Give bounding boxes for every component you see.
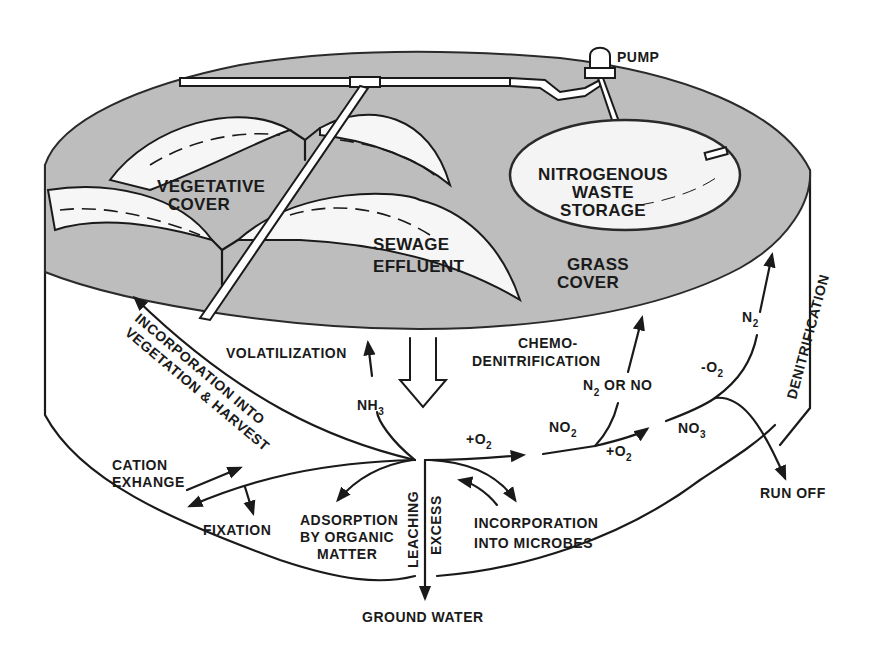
sewage-effluent-label-line1: SEWAGE	[373, 235, 449, 254]
pump-label: PUMP	[617, 49, 659, 65]
run-off-label: RUN OFF	[760, 485, 826, 501]
incorporation-vegetation-label-line2: VEGETATION & HARVEST	[122, 324, 273, 454]
microbes-label-line1: INCORPORATION	[474, 515, 598, 531]
cation-exchange-label-line1: CATION	[112, 457, 168, 473]
n2-or-no-label: N2 OR NO	[583, 377, 652, 398]
storage-label-line1: NITROGENOUS	[538, 165, 668, 184]
chemo-denitrification-label-line1: CHEMO-	[518, 335, 578, 351]
incorporation-vegetation-label-line1: INCORPORATION INTO	[132, 310, 268, 428]
sewage-effluent-label-line2: EFFLUENT	[373, 257, 464, 276]
waste-storage-pool: NITROGENOUS WASTE STORAGE	[510, 120, 740, 230]
adsorption-label-line3: MATTER	[317, 546, 377, 562]
leaching-label: LEACHING	[405, 491, 421, 568]
nitrogen-cycle-diagram: PUMP NITROGENOUS WASTE STORAGE VEGETATIV…	[0, 0, 871, 655]
plus-o2-label-b: +O2	[606, 443, 632, 463]
denitrification-label: DENITRIFICATION	[783, 272, 832, 400]
excess-label: EXCESS	[428, 495, 444, 555]
adsorption-label-line2: BY ORGANIC	[300, 529, 394, 545]
plus-o2-label-a: +O2	[466, 431, 492, 451]
no2-label: NO2	[549, 419, 577, 439]
nh3-label: NH3	[357, 397, 384, 417]
fixation-label: FIXATION	[203, 522, 271, 538]
chemo-denitrification-label-line2: DENITRIFICATION	[472, 353, 601, 369]
storage-label-line3: STORAGE	[560, 201, 646, 220]
grass-cover-label-line1: GRASS	[567, 255, 629, 274]
n2-label: N2	[742, 309, 759, 329]
ground-water-label: GROUND WATER	[362, 609, 484, 625]
vegetative-cover-label-line2: COVER	[168, 195, 230, 214]
vegetative-cover-label-line1: VEGETATIVE	[157, 177, 265, 196]
adsorption-label-line1: ADSORPTION	[300, 512, 398, 528]
volatilization-label: VOLATILIZATION	[226, 345, 347, 361]
storage-label-line2: WASTE	[572, 183, 634, 202]
no3-label: NO3	[678, 420, 706, 440]
microbes-label-line2: INTO MICROBES	[474, 535, 593, 551]
grass-cover-label-line2: COVER	[557, 273, 619, 292]
minus-o2-label: -O2	[701, 359, 724, 379]
infiltration-arrow	[400, 338, 446, 407]
cation-exchange-label-line2: EXHANGE	[112, 474, 185, 490]
